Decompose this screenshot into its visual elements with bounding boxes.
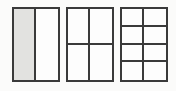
fraction-cell <box>122 45 144 63</box>
fraction-cell <box>68 9 90 45</box>
fraction-cell <box>144 27 166 45</box>
fraction-cell <box>90 9 112 45</box>
rectangle-divided-into-eighths <box>120 7 168 82</box>
rectangle-divided-into-halves <box>12 7 60 82</box>
fraction-cell <box>122 9 144 27</box>
fraction-cell <box>144 45 166 63</box>
fraction-rectangles-figure <box>0 0 176 91</box>
fraction-cell <box>14 9 36 80</box>
fraction-cell <box>122 62 144 80</box>
fraction-cell <box>144 62 166 80</box>
fraction-cell <box>90 45 112 81</box>
fraction-cell <box>36 9 58 80</box>
fraction-cell <box>68 45 90 81</box>
fraction-cell <box>144 9 166 27</box>
fraction-cell <box>122 27 144 45</box>
rectangle-divided-into-fourths <box>66 7 114 82</box>
